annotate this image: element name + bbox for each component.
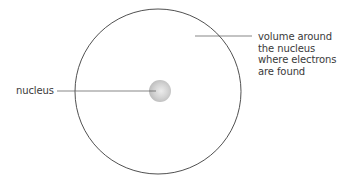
electron-volume-label: volume around the nucleus where electron… (258, 31, 336, 77)
electron-volume-label-line-3: where electrons (258, 54, 336, 66)
electron-volume-label-line-4: are found (258, 66, 336, 78)
atom-diagram: nucleus volume around the nucleus where … (0, 0, 347, 179)
electron-volume-label-line-2: the nucleus (258, 43, 336, 55)
electron-volume-label-line-1: volume around (258, 31, 336, 43)
nucleus-label: nucleus (16, 85, 54, 97)
